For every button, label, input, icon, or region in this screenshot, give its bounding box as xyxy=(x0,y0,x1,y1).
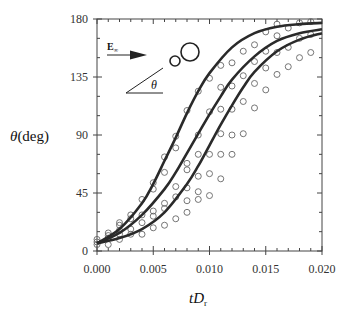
data-point xyxy=(218,151,224,157)
y-axis-label: θ(deg) xyxy=(10,128,49,145)
data-point xyxy=(240,48,246,54)
y-tick-label: 0 xyxy=(82,244,88,258)
large-particle-icon xyxy=(181,43,199,61)
data-point xyxy=(173,145,179,151)
data-point xyxy=(274,71,280,77)
data-point xyxy=(162,169,168,175)
data-point xyxy=(207,151,213,157)
data-point xyxy=(184,198,190,204)
fit-2-curve xyxy=(97,29,322,243)
y-tick-label: 45 xyxy=(76,186,88,200)
data-point xyxy=(218,176,224,182)
data-point xyxy=(274,33,280,39)
x-tick-label: 0.020 xyxy=(309,262,336,276)
y-tick-label: 135 xyxy=(70,70,88,84)
x-tick-label: 0.010 xyxy=(196,262,223,276)
data-point xyxy=(184,209,190,215)
data-point xyxy=(139,231,145,237)
data-point xyxy=(150,225,156,231)
data-point xyxy=(195,151,201,157)
data-point xyxy=(240,73,246,79)
data-point xyxy=(252,105,258,111)
data-point xyxy=(240,131,246,137)
x-tick-label: 0.000 xyxy=(84,262,111,276)
data-point xyxy=(207,193,213,199)
field-label: E∞ xyxy=(107,41,119,53)
data-point xyxy=(218,106,224,112)
data-point xyxy=(229,151,235,157)
data-point xyxy=(173,184,179,190)
field-arrow-icon xyxy=(130,51,147,60)
data-point xyxy=(184,160,190,166)
data-point xyxy=(162,222,168,228)
data-point xyxy=(263,65,269,71)
data-point xyxy=(308,50,314,56)
scatter-points xyxy=(94,19,314,248)
data-point xyxy=(218,131,224,137)
data-point xyxy=(195,196,201,202)
data-point xyxy=(229,132,235,138)
data-point xyxy=(173,216,179,222)
data-point xyxy=(207,171,213,177)
data-point xyxy=(252,42,258,48)
data-point xyxy=(195,189,201,195)
inset-diagram: E∞ θ xyxy=(107,41,199,93)
data-point xyxy=(195,173,201,179)
data-point xyxy=(252,80,258,86)
data-point xyxy=(218,84,224,90)
x-tick-label: 0.005 xyxy=(140,262,167,276)
data-point xyxy=(229,60,235,66)
data-point xyxy=(240,98,246,104)
x-tick-label: 0.015 xyxy=(252,262,279,276)
data-point xyxy=(297,55,303,61)
y-tick-label: 90 xyxy=(76,128,88,142)
y-tick-label: 180 xyxy=(70,12,88,26)
y-tick-labels: 04590135180 xyxy=(70,12,88,258)
angle-label: θ xyxy=(151,78,157,92)
x-axis-label: tDr xyxy=(189,290,207,308)
data-point xyxy=(263,87,269,93)
chart: 0.0000.0050.0100.0150.020 04590135180 E∞… xyxy=(0,0,345,317)
x-tick-labels: 0.0000.0050.0100.0150.020 xyxy=(84,262,336,276)
data-point xyxy=(184,167,190,173)
data-point xyxy=(285,64,291,70)
small-particle-icon xyxy=(170,56,180,66)
angle-ray xyxy=(126,68,163,93)
data-point xyxy=(139,220,145,226)
